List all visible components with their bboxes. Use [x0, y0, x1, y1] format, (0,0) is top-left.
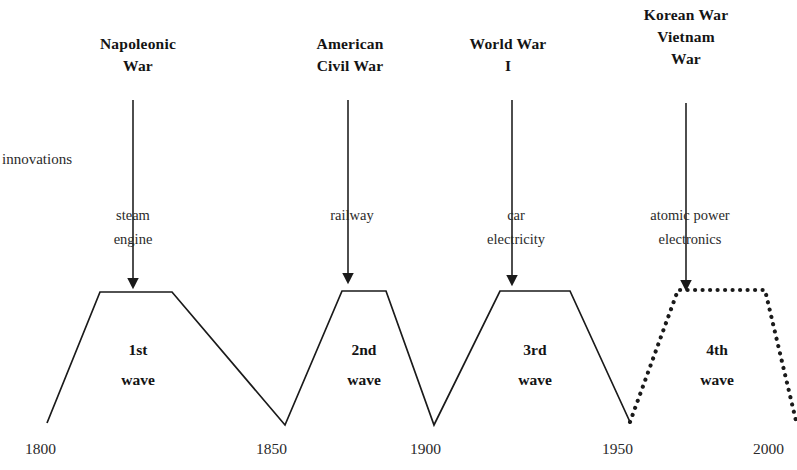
- innovations-axis-caption: innovations: [2, 151, 72, 168]
- year-tick-1950: 1950: [602, 440, 633, 458]
- innovation-label-line: electronics: [650, 228, 729, 252]
- wave-label-line: wave: [518, 365, 552, 395]
- war-label-american-civil: American Civil War: [316, 33, 383, 77]
- war-label-korean-vietnam: Korean War Vietnam War: [644, 4, 729, 70]
- war-label-line: I: [470, 55, 547, 77]
- wave-label-line: 3rd: [518, 335, 552, 365]
- year-tick-1800: 1800: [25, 440, 56, 458]
- innovation-label-wave-4: atomic power electronics: [650, 204, 729, 252]
- war-label-line: War: [100, 55, 176, 77]
- year-tick-2000: 2000: [753, 440, 784, 458]
- war-label-line: Vietnam: [644, 26, 729, 48]
- war-label-line: Napoleonic: [100, 33, 176, 55]
- innovation-label-wave-2: railway: [330, 204, 373, 228]
- war-label-line: Korean War: [644, 4, 729, 26]
- wave-label-line: wave: [121, 365, 155, 395]
- wave-label-4: 4th wave: [700, 335, 734, 395]
- wave-label-line: 2nd: [347, 335, 381, 365]
- wave-label-2: 2nd wave: [347, 335, 381, 395]
- year-tick-1900: 1900: [410, 440, 441, 458]
- wave-label-line: wave: [700, 365, 734, 395]
- war-label-line: World War: [470, 33, 547, 55]
- wave-label-line: 4th: [700, 335, 734, 365]
- war-label-line: Civil War: [316, 55, 383, 77]
- kondratiev-wave-diagram: Napoleonic War American Civil War World …: [0, 0, 797, 470]
- war-label-world-war-i: World War I: [470, 33, 547, 77]
- year-tick-1850: 1850: [256, 440, 287, 458]
- innovation-label-line: electricity: [487, 228, 545, 252]
- innovation-label-line: atomic power: [650, 204, 729, 228]
- wave-label-3: 3rd wave: [518, 335, 552, 395]
- innovation-label-wave-1: steam engine: [114, 204, 153, 252]
- innovation-label-line: steam: [114, 204, 153, 228]
- innovation-label-line: car: [487, 204, 545, 228]
- innovation-label-wave-3: car electricity: [487, 204, 545, 252]
- war-label-line: American: [316, 33, 383, 55]
- war-label-napoleonic: Napoleonic War: [100, 33, 176, 77]
- innovation-label-line: engine: [114, 228, 153, 252]
- wave-label-line: wave: [347, 365, 381, 395]
- war-label-line: War: [644, 48, 729, 70]
- wave-label-line: 1st: [121, 335, 155, 365]
- wave-label-1: 1st wave: [121, 335, 155, 395]
- innovation-label-line: railway: [330, 204, 373, 228]
